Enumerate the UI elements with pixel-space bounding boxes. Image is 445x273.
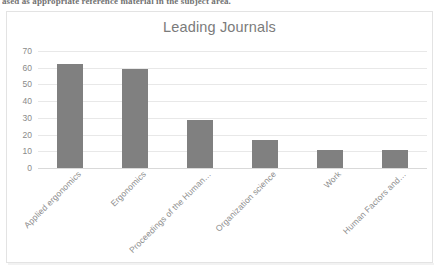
page-text-fragment: ased as appropriate reference material i… bbox=[2, 0, 332, 7]
y-axis-tick-label: 20 bbox=[23, 130, 32, 140]
bar-slot bbox=[233, 51, 298, 168]
bar[interactable] bbox=[122, 69, 148, 168]
y-axis-tick-label: 60 bbox=[23, 63, 32, 73]
bar-slot bbox=[38, 51, 103, 168]
x-axis-category-label: Human Factors and… bbox=[295, 169, 408, 273]
y-axis-tick-label: 0 bbox=[27, 163, 32, 173]
y-axis-tick-label: 10 bbox=[23, 146, 32, 156]
chart-object[interactable]: Leading Journals 010203040506070 Applied… bbox=[6, 11, 433, 263]
y-axis-tick-label: 30 bbox=[23, 113, 32, 123]
y-axis-tick-label: 50 bbox=[23, 79, 32, 89]
bar-slot bbox=[168, 51, 233, 168]
bar-slot bbox=[103, 51, 168, 168]
x-axis-category-label: Applied ergonomics bbox=[0, 169, 83, 273]
bar[interactable] bbox=[317, 150, 343, 168]
bar[interactable] bbox=[382, 150, 408, 168]
y-axis-tick-label: 40 bbox=[23, 96, 32, 106]
y-axis-tick-label: 70 bbox=[23, 46, 32, 56]
bar-slot bbox=[362, 51, 427, 168]
x-axis-category-labels: Applied ergonomicsErgonomicsProceedings … bbox=[38, 169, 427, 259]
bar[interactable] bbox=[57, 64, 83, 168]
bar[interactable] bbox=[252, 140, 278, 168]
bar-series bbox=[38, 51, 427, 168]
plot-area: 010203040506070 bbox=[38, 51, 427, 168]
chart-title: Leading Journals bbox=[7, 19, 432, 35]
bar[interactable] bbox=[187, 120, 213, 168]
bar-slot bbox=[297, 51, 362, 168]
